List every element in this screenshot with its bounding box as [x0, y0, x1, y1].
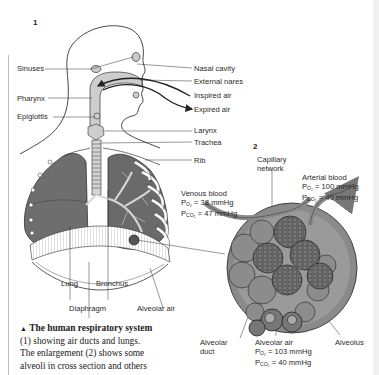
expired-air-arrow	[103, 85, 192, 109]
label-epiglottis: Epiglottis	[17, 112, 48, 121]
figure-caption: ▲ The human respiratory system (1) showi…	[20, 322, 190, 372]
label-trachea: Trachea	[194, 138, 222, 147]
alveolar-air-panel2-label: Alveolar air PO₂ = 103 mmHg PCO₂ = 40 mm…	[255, 338, 312, 369]
label-expired-air: Expired air	[194, 105, 230, 114]
label-rib: Rib	[194, 156, 205, 165]
caption-title: The human respiratory system	[29, 323, 152, 333]
label-inspired-air: Inspired air	[194, 91, 232, 100]
arterial-blood-label: Arterial blood PO₂ = 100 mmHg PCO₂ = 40 …	[302, 173, 359, 204]
figure-page: 1 2 Sinuses Pharynx Epiglottis Nasal cav…	[0, 0, 379, 375]
label-alveolar-duct: Alveolar duct	[200, 338, 227, 356]
label-nasal-cavity: Nasal cavity	[194, 64, 235, 73]
label-larynx: Larynx	[194, 126, 217, 135]
panel-number-2: 2	[253, 142, 257, 151]
label-external-nares: External nares	[194, 77, 243, 86]
larynx	[88, 124, 104, 140]
triangle-marker-icon: ▲	[20, 325, 27, 333]
label-lung: Lung	[61, 279, 78, 288]
sinus-upper	[132, 53, 140, 62]
label-alveolus: Alveolus	[335, 338, 364, 347]
panel-number-1: 1	[33, 18, 37, 27]
label-diaphragm: Diaphragm	[69, 304, 106, 313]
venous-blood-label: Venous blood PO₂ = 38 mmHg PCO₂ = 47 mmH…	[181, 189, 237, 220]
label-alveolar-air: Alveolar air	[137, 304, 175, 313]
label-capillary-network: Capillary network	[257, 155, 287, 173]
label-pharynx: Pharynx	[17, 94, 45, 103]
alveoli-enlargement	[227, 203, 357, 336]
label-bronchus: Bronchus	[96, 279, 128, 288]
label-sinuses: Sinuses	[17, 64, 44, 73]
